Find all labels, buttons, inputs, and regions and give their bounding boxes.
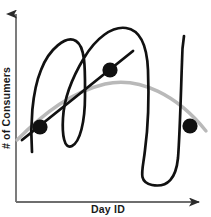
x-axis-label: Day ID xyxy=(91,203,125,215)
marker-right xyxy=(182,118,197,133)
axes-group xyxy=(16,14,199,202)
marker-middle xyxy=(102,62,117,77)
consumers-vs-day-chart: Day ID # of Consumers xyxy=(0,0,211,217)
y-axis-label: # of Consumers xyxy=(0,67,12,149)
marker-left xyxy=(32,119,47,134)
chart-figure: Day ID # of Consumers xyxy=(0,0,211,217)
